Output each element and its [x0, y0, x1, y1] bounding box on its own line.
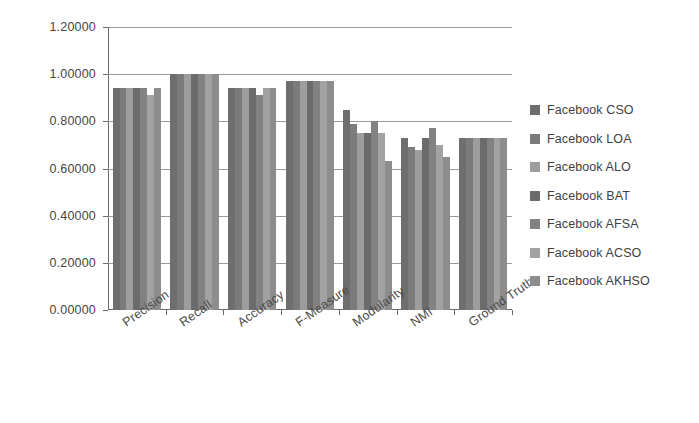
bar	[466, 138, 473, 310]
legend-item[interactable]: Facebook CSO	[530, 96, 695, 125]
bar	[154, 88, 161, 310]
legend-swatch-icon	[530, 162, 540, 172]
bar	[170, 74, 177, 310]
legend-item[interactable]: Facebook LOA	[530, 125, 695, 154]
bar	[184, 74, 191, 310]
legend-item-label: Facebook BAT	[547, 189, 630, 203]
x-axis-labels: PrecisionRecallAccuracyF-MeasureModulari…	[0, 310, 540, 423]
bar	[249, 88, 256, 310]
bar	[371, 121, 378, 310]
bar	[357, 133, 364, 310]
bar	[133, 88, 140, 310]
bar	[480, 138, 487, 310]
legend-item-label: Facebook ACSO	[547, 246, 641, 260]
bar	[113, 88, 120, 310]
legend-item-label: Facebook AFSA	[547, 217, 639, 231]
bar-groups	[108, 27, 512, 310]
legend-swatch-icon	[530, 219, 540, 229]
plot-area	[108, 27, 512, 310]
bar	[343, 110, 350, 310]
bar-group	[459, 27, 507, 310]
bar-group	[228, 27, 276, 310]
bar	[177, 74, 184, 310]
legend-swatch-icon	[530, 248, 540, 258]
bar	[191, 74, 198, 310]
bar	[436, 145, 443, 310]
legend-item-label: Facebook ALO	[547, 160, 631, 174]
bar	[235, 88, 242, 310]
bar	[487, 138, 494, 310]
legend-swatch-icon	[530, 191, 540, 201]
legend-item[interactable]: Facebook ALO	[530, 153, 695, 182]
legend-item[interactable]: Facebook BAT	[530, 182, 695, 211]
bar	[242, 88, 249, 310]
legend-item-label: Facebook CSO	[547, 103, 634, 117]
legend-item[interactable]: Facebook AFSA	[530, 210, 695, 239]
bar	[429, 128, 436, 310]
bar	[205, 74, 212, 310]
legend-item-label: Facebook AKHSO	[547, 274, 650, 288]
y-axis-tick-label: 1.20000	[0, 20, 96, 34]
bar-group	[286, 27, 334, 310]
legend-item[interactable]: Facebook ACSO	[530, 239, 695, 268]
legend-item[interactable]: Facebook AKHSO	[530, 267, 695, 296]
bar-group	[401, 27, 449, 310]
bar	[293, 81, 300, 310]
bar	[473, 138, 480, 310]
bar	[228, 88, 235, 310]
y-axis-tick-label: 0.80000	[0, 114, 96, 128]
bar	[350, 124, 357, 310]
bar-group	[113, 27, 161, 310]
bar	[327, 81, 334, 310]
bar	[126, 88, 133, 310]
bar	[140, 88, 147, 310]
bar	[286, 81, 293, 310]
bar-group	[343, 27, 391, 310]
bar	[401, 138, 408, 310]
y-axis-tick-label: 1.00000	[0, 67, 96, 81]
y-axis-tick-label: 0.40000	[0, 209, 96, 223]
bar	[320, 81, 327, 310]
bar	[198, 74, 205, 310]
bar	[500, 138, 507, 310]
bar	[313, 81, 320, 310]
bar	[300, 81, 307, 310]
bar	[415, 150, 422, 310]
bar	[494, 138, 501, 310]
bar	[256, 95, 263, 310]
y-axis-tick-label: 0.20000	[0, 256, 96, 270]
legend-swatch-icon	[530, 276, 540, 286]
bar-chart: 0.000000.200000.400000.600000.800001.000…	[0, 0, 699, 423]
bar	[263, 88, 270, 310]
legend-swatch-icon	[530, 134, 540, 144]
bar	[120, 88, 127, 310]
bar	[443, 157, 450, 310]
bar	[212, 74, 219, 310]
bar	[147, 95, 154, 310]
bar	[378, 133, 385, 310]
bar	[270, 88, 277, 310]
chart-legend: Facebook CSOFacebook LOAFacebook ALOFace…	[530, 96, 695, 296]
bar	[307, 81, 314, 310]
bar	[422, 138, 429, 310]
legend-swatch-icon	[530, 105, 540, 115]
legend-item-label: Facebook LOA	[547, 132, 632, 146]
bar	[364, 133, 371, 310]
bar	[408, 147, 415, 310]
bar-group	[170, 27, 218, 310]
bar	[459, 138, 466, 310]
y-axis-tick-label: 0.60000	[0, 162, 96, 176]
